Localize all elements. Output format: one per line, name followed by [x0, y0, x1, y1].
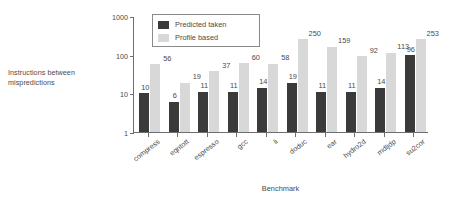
bar-hydro2d-predicted-taken: 11: [346, 92, 356, 132]
bar-group-hydro2d: 1192: [345, 17, 368, 132]
bar-doduc-predicted-taken: 19: [287, 83, 297, 132]
bar-ear-predicted-taken: 11: [316, 92, 326, 132]
x-tick-mark: [236, 133, 237, 137]
x-tick-mark: [325, 133, 326, 137]
x-tick-label-mdljdp: mdljdp: [375, 137, 397, 157]
y-tick-label: 1000: [112, 13, 128, 22]
x-tick-label-espresso: espresso: [192, 137, 221, 162]
chart-legend: Predicted takenProfile based: [152, 14, 260, 47]
x-tick-label-eqntott: eqntott: [168, 137, 191, 158]
bar-eqntott-profile-based: 19: [180, 83, 190, 132]
bar-eqntott-predicted-taken: 6: [169, 102, 179, 132]
bar-espresso-predicted-taken: 11: [198, 92, 208, 132]
legend-item: Predicted taken: [158, 19, 254, 30]
bar-su2cor-profile-based: 253: [416, 39, 426, 132]
x-tick-mark: [148, 133, 149, 137]
y-tick-mark: [130, 17, 134, 18]
bar-gcc-profile-based: 60: [239, 63, 249, 132]
y-tick-mark: [130, 56, 134, 57]
x-tick-label-doduc: doduc: [288, 137, 309, 156]
legend-swatch: [158, 21, 169, 29]
bar-group-mdljdp: 14113: [374, 17, 397, 132]
x-axis-label: Benchmark: [133, 184, 428, 193]
bar-value-label: 253: [422, 29, 444, 38]
bar-mdljdp-predicted-taken: 14: [375, 88, 385, 132]
x-tick-mark: [266, 133, 267, 137]
legend-swatch: [158, 34, 169, 42]
legend-label: Predicted taken: [175, 20, 226, 29]
bar-compress-profile-based: 56: [150, 64, 160, 132]
bar-li-predicted-taken: 14: [257, 88, 267, 132]
legend-label: Profile based: [175, 33, 218, 42]
bar-doduc-profile-based: 250: [298, 39, 308, 132]
y-tick-label: 1: [124, 129, 128, 138]
bar-mdljdp-profile-based: 113: [386, 53, 396, 132]
bar-ear-profile-based: 159: [327, 47, 337, 132]
x-tick-mark: [413, 133, 414, 137]
y-tick-mark: [130, 133, 134, 134]
x-tick-label-gcc: gcc: [235, 137, 249, 151]
x-tick-label-ear: ear: [325, 137, 339, 150]
y-axis-label-line-2: mispredictions: [8, 78, 108, 88]
x-tick-label-li: li: [271, 137, 279, 146]
y-axis-label: Instructions between mispredictions: [8, 68, 108, 87]
bar-hydro2d-profile-based: 92: [357, 56, 367, 132]
bar-compress-predicted-taken: 10: [139, 93, 149, 132]
x-tick-label-su2cor: su2cor: [404, 137, 427, 157]
y-tick-label: 100: [116, 51, 128, 60]
x-tick-label-hydro2d: hydro2d: [342, 137, 368, 160]
x-tick-mark: [177, 133, 178, 137]
x-tick-mark: [354, 133, 355, 137]
x-tick-mark: [207, 133, 208, 137]
bar-li-profile-based: 58: [268, 64, 278, 132]
bar-gcc-predicted-taken: 11: [228, 92, 238, 132]
bar-group-su2cor: 96253: [404, 17, 427, 132]
legend-item: Profile based: [158, 32, 254, 43]
bar-group-doduc: 19250: [286, 17, 309, 132]
y-tick-label: 10: [120, 90, 128, 99]
x-tick-mark: [295, 133, 296, 137]
y-axis-line: [133, 17, 134, 133]
bar-su2cor-predicted-taken: 96: [405, 55, 415, 132]
bar-chart-figure: Instructions between mispredictions 1101…: [0, 0, 450, 203]
y-tick-mark: [130, 94, 134, 95]
y-axis-label-line-1: Instructions between: [8, 68, 108, 78]
bar-espresso-profile-based: 37: [209, 71, 219, 132]
bar-group-ear: 11159: [315, 17, 338, 132]
x-tick-label-compress: compress: [131, 137, 161, 163]
x-tick-mark: [384, 133, 385, 137]
